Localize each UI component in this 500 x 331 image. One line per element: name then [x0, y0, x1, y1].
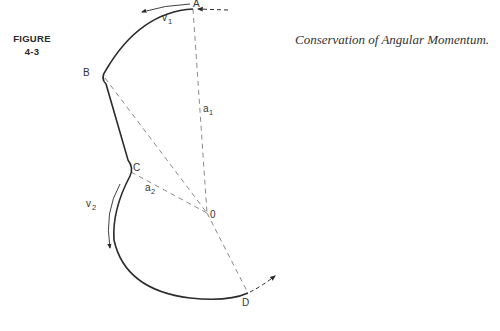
incoming-path — [198, 9, 228, 10]
radius-lines — [105, 9, 248, 293]
svg-text:v: v — [86, 198, 91, 209]
radius-ob-line — [105, 78, 207, 213]
svg-text:1: 1 — [209, 108, 213, 117]
angular-momentum-diagram: A B C 0 D v 1 v 2 a 1 a 2 — [0, 0, 500, 331]
point-c-label: C — [133, 162, 140, 173]
point-b-label: B — [83, 67, 90, 78]
point-o-label: 0 — [210, 209, 216, 220]
svg-text:2: 2 — [151, 187, 155, 196]
svg-text:2: 2 — [92, 203, 96, 212]
trajectory-path — [103, 9, 248, 299]
svg-text:v: v — [162, 12, 167, 23]
a1-label: a 1 — [203, 103, 213, 117]
radius-a2-line — [131, 172, 207, 213]
svg-text:1: 1 — [168, 17, 172, 26]
v2-label: v 2 — [86, 198, 96, 212]
a2-label: a 2 — [145, 182, 155, 196]
point-a-label: A — [193, 0, 200, 9]
outgoing-path — [250, 276, 275, 292]
radius-od-line — [207, 213, 248, 293]
point-d-label: D — [242, 297, 249, 308]
